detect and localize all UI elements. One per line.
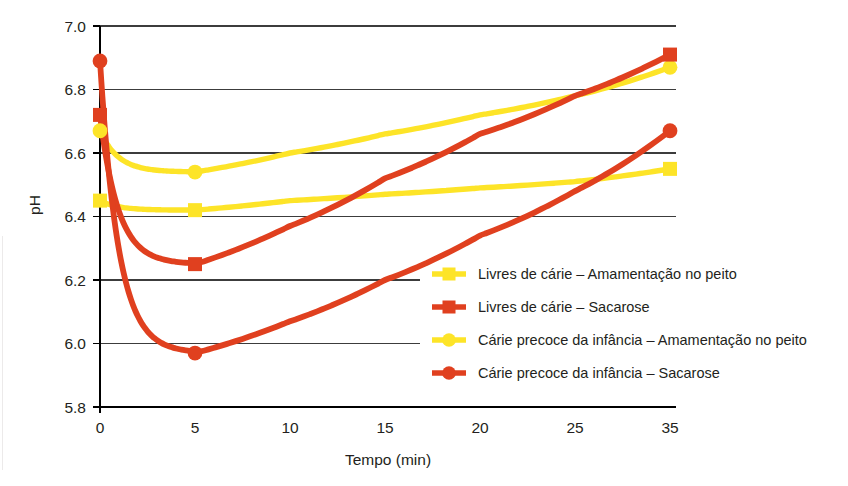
x-axis-tick-label: 15 <box>376 419 393 436</box>
axes <box>93 26 676 413</box>
legend-item-label: Livres de cárie – Amamentação no peito <box>478 266 737 282</box>
data-point-marker-circle <box>663 60 678 75</box>
x-axis-tick-label: 0 <box>96 419 105 436</box>
data-point-marker-square <box>188 203 202 217</box>
legend-marker-square <box>443 301 456 314</box>
y-axis-title: pH <box>26 195 43 215</box>
chart-legend: Livres de cárie – Amamentação no peitoLi… <box>432 266 807 381</box>
data-point-marker-square <box>93 194 107 208</box>
y-axis-tick-label: 6.4 <box>64 208 86 225</box>
legend-item-label: Cárie precoce da infância – Amamentação … <box>478 332 807 348</box>
data-point-marker-square <box>188 257 202 271</box>
y-axis-tick-labels: 5.86.06.26.46.66.87.0 <box>64 18 86 416</box>
axis-titles: Tempo (min)pH <box>26 195 431 468</box>
series-line <box>100 55 670 264</box>
data-point-marker-square <box>93 108 107 122</box>
y-axis-tick-label: 6.8 <box>64 81 86 98</box>
legend-item-label: Cárie precoce da infância – Sacarose <box>478 365 720 381</box>
data-point-marker-circle <box>188 346 203 361</box>
data-point-marker-circle <box>93 54 108 69</box>
y-axis-tick-label: 7.0 <box>64 18 86 35</box>
x-axis-tick-label: 20 <box>471 419 489 436</box>
data-point-marker-circle <box>188 165 203 180</box>
chart-canvas: 5.86.06.26.46.66.87.0 051015202535 Tempo… <box>0 0 848 486</box>
y-axis-tick-label: 6.0 <box>64 335 86 352</box>
x-axis-tick-label: 25 <box>566 419 583 436</box>
legend-marker-circle <box>442 333 456 347</box>
y-axis-tick-label: 6.2 <box>64 272 86 289</box>
x-axis-tick-label: 10 <box>281 419 299 436</box>
y-axis-tick-label: 5.8 <box>64 399 86 416</box>
legend-marker-square <box>443 268 456 281</box>
data-point-marker-circle <box>663 123 678 138</box>
legend-item-label: Livres de cárie – Sacarose <box>478 299 650 315</box>
y-axis-tick-label: 6.6 <box>64 145 86 162</box>
x-axis-tick-label: 35 <box>661 419 678 436</box>
data-point-marker-square <box>663 48 677 62</box>
data-point-marker-square <box>663 162 677 176</box>
x-axis-tick-label: 5 <box>191 419 200 436</box>
series-line <box>100 67 670 172</box>
x-axis-title: Tempo (min) <box>345 451 431 468</box>
x-axis-tick-labels: 051015202535 <box>96 419 679 436</box>
legend-marker-circle <box>442 366 456 380</box>
ph-stephan-curve-chart: 5.86.06.26.46.66.87.0 051015202535 Tempo… <box>0 0 848 486</box>
data-point-marker-circle <box>93 123 108 138</box>
